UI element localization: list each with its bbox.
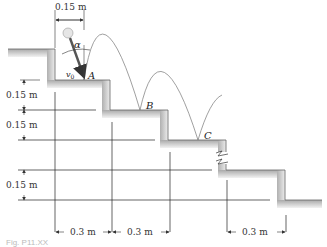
dim-label-bottom-3: 0.3 m	[242, 228, 268, 237]
velocity-label: v0	[66, 71, 74, 80]
dim-label-bottom-2: 0.3 m	[127, 228, 153, 237]
point-b-label: B	[146, 101, 153, 111]
dim-label-left-2: 0.15 m	[6, 121, 37, 130]
dim-label-bottom-1: 0.3 m	[70, 228, 96, 237]
dim-label-left-1: 0.15 m	[6, 91, 37, 100]
angle-alpha-label: α	[74, 40, 81, 50]
dim-label-left-3: 0.15 m	[6, 181, 37, 190]
velocity-subscript: 0	[71, 73, 75, 80]
point-c-label: C	[204, 131, 212, 141]
dim-label-top: 0.15 m	[55, 3, 86, 12]
point-a-label: A	[88, 71, 95, 81]
ball	[63, 28, 73, 38]
figure-caption: Fig. P11.XX	[6, 239, 48, 247]
